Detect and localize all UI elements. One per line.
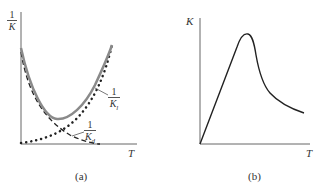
- panel-a-axes: [21, 12, 137, 144]
- x-axis-label-a: T: [128, 148, 134, 159]
- y-axis-label-a: 1 K: [7, 10, 17, 32]
- y-axis-label-b: K: [186, 16, 193, 27]
- x-axis-label-b: T: [306, 148, 312, 159]
- caption-a: (a): [75, 170, 87, 182]
- panel-b-axes: [200, 18, 310, 144]
- caption-b: (b): [248, 170, 261, 182]
- label-1-over-kd: 1 Kd: [84, 120, 96, 145]
- curve-1-over-kl: [21, 45, 112, 119]
- label-1-over-kl: 1 Kl: [108, 87, 120, 112]
- diagram-canvas: [0, 0, 333, 189]
- curve-k: [200, 34, 304, 144]
